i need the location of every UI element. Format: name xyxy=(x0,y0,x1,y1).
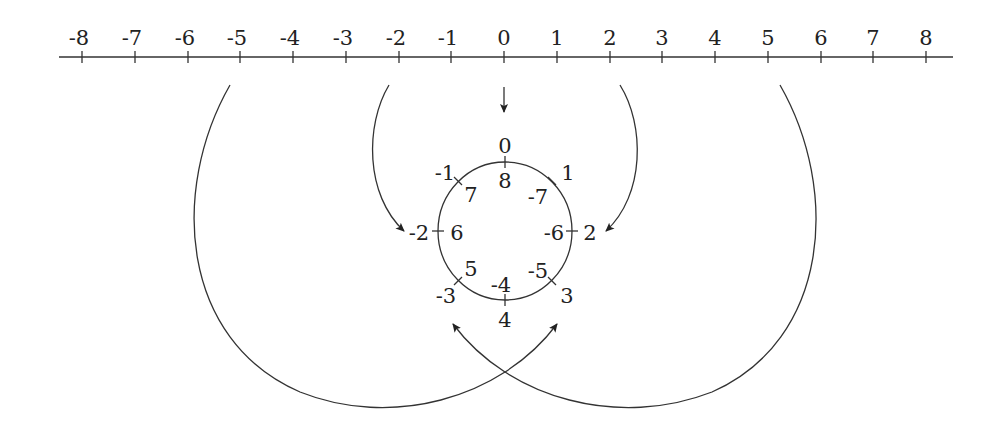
circle-outer-label: 4 xyxy=(498,308,511,332)
tick-label: -4 xyxy=(280,26,300,50)
circle-outer-label: 3 xyxy=(560,284,573,308)
tick-label: 6 xyxy=(814,26,827,50)
circle-inner-label: -7 xyxy=(528,185,548,209)
circle-outer-label: 1 xyxy=(561,161,574,185)
tick-label: -8 xyxy=(69,26,89,50)
modular-arithmetic-diagram: -8 -7 -6 -5 -4 -3 -2 -1 0 1 2 3 4 5 6 7 … xyxy=(0,0,1002,428)
number-line-labels: -8 -7 -6 -5 -4 -3 -2 -1 0 1 2 3 4 5 6 7 … xyxy=(69,26,933,50)
tick-label: -7 xyxy=(122,26,142,50)
circle-inner-label: 7 xyxy=(464,183,477,207)
circle-inner-label: 5 xyxy=(464,257,477,281)
tick-label: -2 xyxy=(386,26,406,50)
circle-outer-label: -3 xyxy=(436,284,456,308)
tick-label: 4 xyxy=(708,26,721,50)
circle-inner-label: 8 xyxy=(498,169,511,193)
tick-label: -1 xyxy=(438,26,458,50)
tick-label: 3 xyxy=(655,26,668,50)
arrow-plus2-to-circle xyxy=(606,85,637,231)
circle-outer-label: 2 xyxy=(583,221,596,245)
tick-label: 8 xyxy=(919,26,932,50)
circle-inner-label: 6 xyxy=(450,221,463,245)
tick-label: 0 xyxy=(497,26,510,50)
tick-label: 5 xyxy=(761,26,774,50)
tick-label: -6 xyxy=(175,26,195,50)
circle-inner-label: -4 xyxy=(491,273,511,297)
tick-label: 7 xyxy=(866,26,879,50)
circle-inner-label: -5 xyxy=(528,259,548,283)
tick-label: -3 xyxy=(333,26,353,50)
circle-inner-label: -6 xyxy=(544,221,564,245)
circle-outer-label: 0 xyxy=(498,134,511,158)
tick-label: -5 xyxy=(227,26,247,50)
arrow-minus2-to-circle xyxy=(373,85,404,231)
circle-labels: 0 1 2 3 4 -3 -2 -1 8 -7 -6 -5 -4 5 6 7 xyxy=(409,134,597,332)
circle-outer-label: -2 xyxy=(409,221,429,245)
tick-label: 1 xyxy=(550,26,563,50)
tick-label: 2 xyxy=(603,26,616,50)
circle-outer-label: -1 xyxy=(435,161,455,185)
